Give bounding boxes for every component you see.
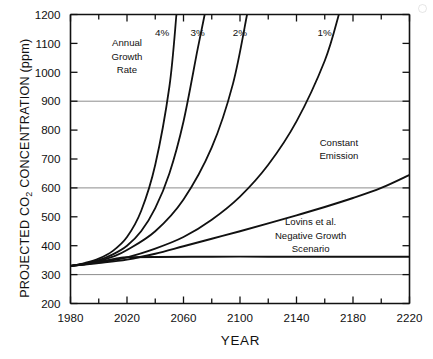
x-tick-label-2180: 2180 [340,311,366,324]
y-tick-label-1200: 1200 [35,8,61,21]
y-tick-label-200: 200 [41,297,60,310]
y-tick-label-1000: 1000 [35,66,61,79]
curve-label-3pct: 3% [190,27,204,38]
annotation-line: Constant [320,137,359,148]
curve-label-2pct: 2% [233,27,247,38]
curve-label-1pct: 1% [318,27,332,38]
annotation-lovins-scenario: Lovins et al.Negative GrowthScenario [275,216,346,254]
co2-projection-figure: PROJECTED CO2 CONCENTRATION (ppm) YEAR 1… [0,0,433,359]
x-tick-label-2140: 2140 [284,311,310,324]
plot-area: 1980202020602100214021802220200300400500… [0,0,433,359]
annotation-line: Rate [117,64,137,75]
x-tick-label-1980: 1980 [58,311,84,324]
curve-2 [71,15,248,266]
annotation-line: Scenario [292,243,330,254]
y-tick-label-700: 700 [41,152,60,165]
x-tick-label-2220: 2220 [397,311,423,324]
annotation-line: Emission [319,150,358,161]
y-tick-label-800: 800 [41,123,60,136]
annotation-line: Lovins et al. [285,216,336,227]
x-tick-label-2100: 2100 [227,311,253,324]
y-tick-label-300: 300 [41,268,60,281]
curve-label-4pct: 4% [155,27,169,38]
tick-label-group: 1980202020602100214021802220200300400500… [35,8,423,324]
x-tick-label-2020: 2020 [114,311,140,324]
y-tick-label-900: 900 [41,94,60,107]
annotation-constant-emission: ConstantEmission [319,137,358,162]
y-tick-label-600: 600 [41,181,60,194]
annotation-annual-growth-rate: AnnualGrowthRate [112,37,143,75]
y-tick-label-400: 400 [41,239,60,252]
annotation-line: Negative Growth [275,230,346,241]
y-tick-label-500: 500 [41,210,60,223]
y-tick-label-1100: 1100 [36,37,61,50]
annotation-line: Annual [112,37,142,48]
x-tick-label-2060: 2060 [171,311,197,324]
annotation-line: Growth [112,51,143,62]
